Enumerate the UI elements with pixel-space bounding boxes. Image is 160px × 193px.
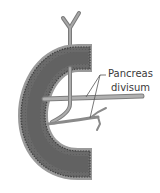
duodenum [18,44,92,180]
pancreas-divisum-label-line1: Pancreas [108,68,153,80]
dorsal-duct [44,96,142,99]
bile-duct-top [63,13,79,45]
pancreas-divisum-label-line2: divisum [111,82,150,94]
pancreas-divisum-diagram [0,0,160,193]
